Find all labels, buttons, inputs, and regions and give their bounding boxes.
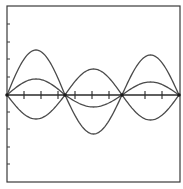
- small-amplitude-curve: [7, 79, 179, 107]
- standing-wave-diagram: [0, 0, 183, 189]
- node-point: [63, 93, 67, 97]
- plot-frame: [7, 6, 180, 182]
- standing-wave-figure: [0, 0, 183, 189]
- node-point: [177, 93, 181, 97]
- frame-border: [7, 6, 180, 182]
- wave-curves: [7, 50, 179, 134]
- large-amplitude-curve: [7, 50, 179, 134]
- node-point: [5, 93, 9, 97]
- node-point: [120, 93, 124, 97]
